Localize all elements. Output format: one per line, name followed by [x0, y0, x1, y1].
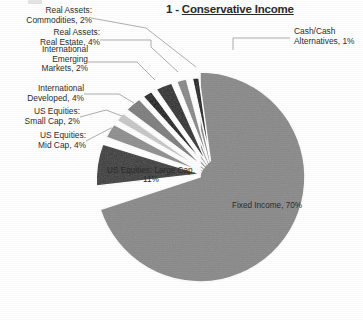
leader-emerging — [88, 62, 155, 80]
leader-real-estate — [100, 40, 178, 72]
label-international-developed: International Developed, 4% — [12, 84, 84, 103]
leader-developed — [84, 94, 134, 103]
leader-commodities — [91, 18, 196, 67]
label-us-equities-mid-cap: US Equities: Mid Cap, 4% — [14, 131, 86, 150]
label-real-assets-commodities: Real Assets: Commodities, 2% — [4, 6, 92, 25]
label-international-emerging-markets: International Emerging Markets, 2% — [22, 45, 88, 74]
label-cash-alternatives: Cash/Cash Alternatives, 1% — [294, 27, 362, 46]
leader-small-cap — [80, 110, 122, 117]
label-fixed-income: Fixed Income, 70% — [232, 201, 322, 210]
label-us-equities-large-cap: US Equities: Large Cap, 11% — [103, 166, 199, 185]
pie-chart-figure: 1 - Conservative Income — [0, 0, 363, 320]
label-us-equities-small-cap: US Equities: Small Cap, 2% — [6, 107, 80, 126]
leader-cash — [233, 38, 290, 50]
